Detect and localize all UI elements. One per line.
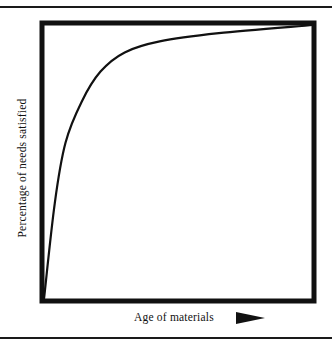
plot-frame bbox=[42, 23, 314, 301]
data-curve bbox=[44, 25, 313, 299]
y-axis-label: Percentage of needs satisfied bbox=[16, 99, 28, 238]
bottom-rule bbox=[0, 337, 332, 339]
right-arrow-icon bbox=[236, 312, 265, 324]
chart-canvas bbox=[0, 0, 332, 345]
x-axis-label: Age of materials bbox=[134, 311, 214, 323]
